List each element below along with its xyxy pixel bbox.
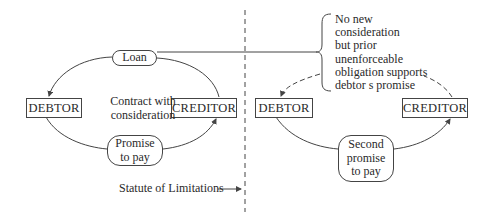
promise-line-2: to pay [115,151,154,165]
loan-arc-to-debtor [49,57,112,96]
creditor-label-right: CREDITOR [403,101,467,116]
dashed-arc-to-debtor [281,74,320,96]
second-promise-arc-to-creditor [394,119,450,149]
loan-label: Loan [122,51,147,65]
note-text: No new consideration but prior unenforce… [335,13,427,92]
statute-label: Statute of Limitations [119,182,224,196]
debtor-box-right: DEBTOR [255,98,313,118]
loan-node: Loan [112,50,157,66]
promise-arc-to-creditor [163,119,216,149]
dashed-arc-from-creditor [424,76,452,97]
promise-to-pay-node: Promise to pay [107,135,163,166]
second-promise-line-3: to pay [347,165,386,179]
note-line: but prior [335,39,427,52]
debtor-label-right: DEBTOR [259,101,310,116]
debtor-arc-to-second-promise [276,117,338,149]
contract-line-1: Contract with [98,95,188,109]
debtor-box-left: DEBTOR [26,98,82,118]
promise-line-1: Promise [115,137,154,151]
creditor-box-right: CREDITOR [402,98,468,118]
creditor-arc-to-loan [157,58,219,97]
contract-caption: Contract with consideration [98,95,188,122]
curly-brace [316,14,331,91]
note-line: debtor s promise [335,79,427,92]
second-promise-line-2: promise [347,152,386,166]
contract-line-2: consideration [98,109,188,123]
debtor-label: DEBTOR [29,101,80,116]
second-promise-node: Second promise to pay [338,135,394,182]
note-line: unenforceable [335,53,427,66]
second-promise-line-1: Second [347,138,386,152]
